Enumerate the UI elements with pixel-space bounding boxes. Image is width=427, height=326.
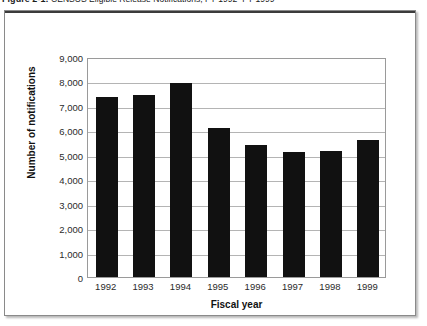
- y-axis-tick-label: 1,000: [39, 248, 83, 259]
- x-axis-ticks: 19921993199419951996199719981999: [87, 281, 386, 297]
- y-axis-tick-label: 3,000: [39, 199, 83, 210]
- x-axis-tick-label: 1998: [319, 281, 340, 292]
- y-axis-tick-label: 8,000: [39, 77, 83, 88]
- bar-chart: 01,0002,0003,0004,0005,0006,0007,0008,00…: [5, 11, 417, 317]
- bar-1998: [320, 151, 342, 277]
- x-axis-tick-label: 1995: [207, 281, 228, 292]
- bar-1992: [96, 97, 118, 277]
- y-axis-tick-label: 4,000: [39, 175, 83, 186]
- bar-1994: [170, 83, 192, 277]
- x-axis-tick-label: 1997: [282, 281, 303, 292]
- y-axis-tick-label: 5,000: [39, 150, 83, 161]
- y-axis-tick-label: 9,000: [39, 53, 83, 64]
- plot-area: [87, 58, 386, 278]
- x-axis-tick-label: 1999: [357, 281, 378, 292]
- bar-1999: [357, 140, 379, 277]
- figure-caption-label: Figure 2-1:: [2, 0, 49, 4]
- figure-caption: Figure 2-1: CENSUS Eligible Release Noti…: [2, 0, 275, 4]
- y-axis-tick-label: 0: [39, 273, 83, 284]
- x-axis-tick-label: 1994: [170, 281, 191, 292]
- bars-series: [88, 59, 385, 277]
- y-axis-tick-label: 2,000: [39, 224, 83, 235]
- bar-1996: [245, 145, 267, 277]
- x-axis-tick-label: 1993: [132, 281, 153, 292]
- figure-caption-text: CENSUS Eligible Release Notifications, F…: [51, 0, 275, 4]
- figure-panel: 01,0002,0003,0004,0005,0006,0007,0008,00…: [4, 10, 416, 316]
- y-axis-ticks: 01,0002,0003,0004,0005,0006,0007,0008,00…: [35, 58, 83, 278]
- bar-1995: [208, 128, 230, 277]
- x-axis-tick-label: 1992: [95, 281, 116, 292]
- y-axis-title: Number of notifications: [26, 48, 37, 198]
- bar-1993: [133, 95, 155, 277]
- y-axis-tick-label: 6,000: [39, 126, 83, 137]
- x-axis-tick-label: 1996: [245, 281, 266, 292]
- bar-1997: [283, 152, 305, 277]
- y-axis-tick-label: 7,000: [39, 101, 83, 112]
- x-axis-title: Fiscal year: [87, 299, 386, 310]
